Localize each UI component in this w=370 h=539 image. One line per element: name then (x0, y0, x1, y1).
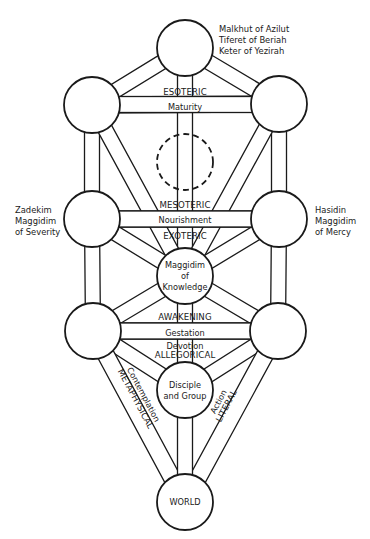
esoteric-label: ESOTERIC (163, 87, 207, 97)
crown-label-line-3: Keter of Yezirah (219, 46, 284, 56)
exoteric-label: EXOTERIC (163, 231, 207, 241)
mercy-label-line-1: Hasidin (315, 205, 346, 215)
severity-label-line-3: of Severity (15, 227, 60, 237)
maturity-label: Maturity (168, 102, 202, 112)
mesoteric-label: MESOTERIC (159, 200, 210, 210)
node-lower-left (65, 303, 121, 359)
node-upper-right (251, 76, 307, 132)
node-upper-left (64, 77, 120, 133)
node-disciple-label: Disciple (169, 380, 201, 390)
node-crown (157, 20, 213, 76)
gestation-label: Gestation (165, 328, 205, 338)
node-disciple-label: and Group (164, 391, 207, 401)
nourishment-label: Nourishment (159, 215, 213, 225)
severity-label-line-2: Maggidim (15, 216, 56, 226)
mercy-label-line-2: Maggidim (315, 216, 356, 226)
awakening-label: AWAKENING (158, 312, 211, 322)
mercy-label-line-3: of Mercy (315, 227, 351, 237)
node-middle-right (251, 191, 307, 247)
tree-diagram: MaggidimofKnowledgeDiscipleand GroupWORL… (0, 0, 370, 539)
node-lower-right (250, 303, 306, 359)
node-knowledge-label: Knowledge (162, 282, 207, 292)
node-knowledge-label: Maggidim (165, 260, 205, 270)
node-knowledge-label: of (181, 271, 190, 281)
node-world-label: WORLD (169, 497, 200, 507)
severity-label-line-1: Zadekim (15, 205, 52, 215)
allegorical-label: ALLEGORICAL (155, 350, 216, 360)
crown-label-line-1: Malkhut of Azilut (219, 24, 290, 34)
crown-label-line-2: Tiferet of Beriah (218, 35, 287, 45)
node-middle-left (64, 191, 120, 247)
channel-crown-knowledge (178, 48, 193, 276)
